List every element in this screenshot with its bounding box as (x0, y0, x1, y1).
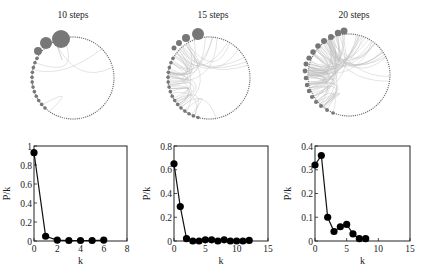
data-point (208, 236, 215, 243)
data-point (343, 221, 350, 228)
x-tick-label: 10 (232, 244, 242, 254)
x-tick-label: 0 (32, 244, 37, 254)
data-point (183, 235, 190, 242)
data-line (174, 164, 249, 241)
data-point (246, 237, 253, 244)
data-point (77, 237, 84, 244)
y-tick-label: 1 (27, 142, 32, 152)
data-point (100, 236, 107, 243)
x-axis-label: k (360, 255, 365, 266)
y-tick-label: 0.6 (20, 180, 32, 190)
data-point (233, 237, 240, 244)
x-tick-label: 6 (101, 244, 106, 254)
x-axis-label: k (78, 255, 83, 266)
data-point (221, 236, 228, 243)
chart-2: 05101500.10.20.30.4kP/k (282, 142, 415, 267)
data-point (65, 237, 72, 244)
y-tick-label: 0.4 (20, 199, 32, 209)
data-point (202, 236, 209, 243)
data-point (330, 228, 337, 235)
data-point (30, 149, 37, 156)
x-tick-label: 0 (172, 244, 177, 254)
data-point (349, 230, 356, 237)
y-axis-label: P/k (282, 187, 293, 200)
chart-1: 05101500.20.40.60.8kP/k (141, 142, 273, 267)
y-tick-label: 0.2 (301, 189, 313, 199)
y-tick-label: 0 (167, 237, 172, 247)
x-tick-label: 4 (78, 244, 83, 254)
chart-0: 0246800.20.40.60.81kP/k (1, 142, 130, 267)
data-point (337, 223, 344, 230)
x-tick-label: 0 (313, 244, 318, 254)
x-tick-label: 2 (55, 244, 60, 254)
y-axis-label: P/k (141, 187, 152, 200)
data-point (356, 235, 363, 242)
data-point (89, 237, 96, 244)
data-point (177, 203, 184, 210)
data-point (54, 236, 61, 243)
y-tick-label: 0.4 (160, 189, 172, 199)
data-point (239, 237, 246, 244)
y-tick-label: 0.8 (20, 161, 32, 171)
line-charts: 0246800.20.40.60.81kP/k05101500.20.40.60… (0, 0, 423, 272)
x-tick-label: 8 (125, 244, 130, 254)
y-tick-label: 0.6 (160, 165, 172, 175)
data-point (195, 237, 202, 244)
data-point (214, 237, 221, 244)
y-tick-label: 0.8 (160, 142, 172, 152)
data-point (189, 237, 196, 244)
y-tick-label: 0.1 (301, 213, 313, 223)
data-point (324, 214, 331, 221)
x-tick-label: 5 (344, 244, 349, 254)
y-axis-label: P/k (1, 187, 12, 200)
data-point (227, 237, 234, 244)
y-tick-label: 0 (27, 237, 32, 247)
x-axis-label: k (219, 255, 224, 266)
data-line (34, 153, 104, 241)
data-point (362, 235, 369, 242)
data-point (170, 160, 177, 167)
y-tick-label: 0.3 (301, 165, 313, 175)
y-tick-label: 0 (308, 237, 313, 247)
y-tick-label: 0.2 (20, 218, 32, 228)
data-point (311, 161, 318, 168)
plot-frame (315, 146, 410, 241)
y-tick-label: 0.2 (160, 213, 172, 223)
data-point (42, 233, 49, 240)
plot-frame (34, 146, 127, 241)
data-point (318, 152, 325, 159)
y-tick-label: 0.4 (301, 142, 313, 152)
plot-frame (174, 146, 268, 241)
x-tick-label: 15 (263, 244, 273, 254)
x-tick-label: 5 (203, 244, 208, 254)
x-tick-label: 10 (374, 244, 384, 254)
x-tick-label: 15 (405, 244, 415, 254)
